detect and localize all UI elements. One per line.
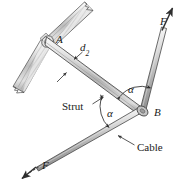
cable-upper-highlight xyxy=(141,28,163,113)
leader-strut-dimension xyxy=(57,73,67,83)
mechanics-figure: A d2 B F F α α Strut Cable xyxy=(0,0,180,187)
strut-shade-line xyxy=(46,43,140,113)
label-angle-upper: α xyxy=(128,84,134,95)
force-arrow-bottom xyxy=(22,167,36,179)
label-force-top: F xyxy=(160,16,167,27)
member-lower-arm xyxy=(13,40,50,94)
cable-lower-highlight xyxy=(38,107,143,168)
strut-member xyxy=(45,37,142,115)
label-distance-d2-base: d xyxy=(80,41,86,53)
cable-upper-segment xyxy=(139,27,167,116)
figure-canvas xyxy=(0,0,180,187)
label-distance-d2-subscript: 2 xyxy=(86,49,90,58)
leader-strut-label xyxy=(93,97,104,104)
strut-highlight xyxy=(48,39,142,109)
label-strut: Strut xyxy=(62,101,83,112)
label-cable: Cable xyxy=(137,142,163,153)
label-joint-b: B xyxy=(154,107,161,118)
label-joint-a: A xyxy=(56,34,63,45)
label-force-bottom: F xyxy=(42,160,49,171)
label-distance-d2: d2 xyxy=(80,42,89,56)
cable-upper-body xyxy=(139,27,167,116)
leader-cable-label xyxy=(118,136,135,146)
label-angle-lower: α xyxy=(107,108,113,119)
